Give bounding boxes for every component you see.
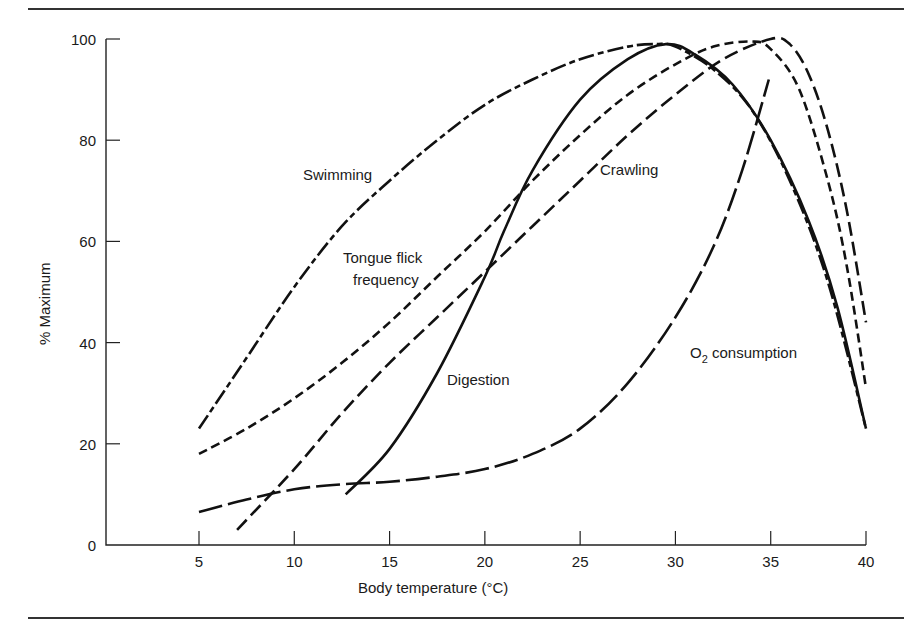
- curve-o2-consumption: [199, 80, 769, 513]
- y-tick-label: 100: [71, 31, 96, 48]
- curves: [199, 38, 866, 530]
- x-tick-label: 30: [667, 553, 684, 570]
- y-tick-label: 40: [79, 335, 96, 352]
- x-tick-label: 25: [572, 553, 589, 570]
- y-axis-ticks: 020406080100: [71, 31, 120, 554]
- x-tick-label: 5: [195, 553, 203, 570]
- curve-swimming: [199, 44, 866, 429]
- label-digestion: Digestion: [447, 371, 510, 388]
- x-tick-label: 20: [477, 553, 494, 570]
- y-tick-label: 80: [79, 132, 96, 149]
- chart: 020406080100 510152025303540 Body temper…: [0, 0, 904, 620]
- x-tick-label: 15: [381, 553, 398, 570]
- axes: 020406080100 510152025303540 Body temper…: [36, 31, 874, 596]
- x-axis-label: Body temperature (°C): [358, 579, 508, 596]
- curve-tongue-flick-frequency: [199, 41, 866, 453]
- label-swimming: Swimming: [303, 166, 372, 183]
- curve-labels: Swimming Tongue flick frequency Crawling…: [303, 161, 797, 388]
- x-tick-label: 10: [286, 553, 303, 570]
- y-tick-label: 60: [79, 233, 96, 250]
- label-tongue-flick-2: frequency: [353, 271, 419, 288]
- label-crawling: Crawling: [600, 161, 658, 178]
- label-tongue-flick-1: Tongue flick: [343, 249, 423, 266]
- y-axis-label: % Maximum: [36, 262, 53, 345]
- x-tick-label: 35: [762, 553, 779, 570]
- curve-crawling: [237, 38, 866, 530]
- x-axis-ticks: 510152025303540: [195, 531, 875, 570]
- y-tick-label: 0: [88, 537, 96, 554]
- x-tick-label: 40: [858, 553, 875, 570]
- label-o2-consumption: O2 consumption: [690, 344, 797, 365]
- y-tick-label: 20: [79, 436, 96, 453]
